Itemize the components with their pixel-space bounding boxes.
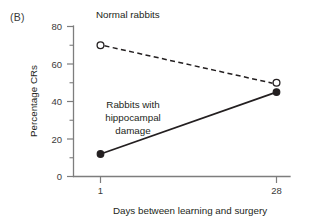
x-axis-tick-labels: 1 28 — [98, 185, 282, 196]
data-point-marker — [97, 42, 104, 49]
annotation-line: damage — [115, 125, 151, 136]
y-tick-label: 40 — [51, 96, 62, 107]
data-point-marker — [273, 79, 280, 86]
annotation-line: hippocampal — [105, 112, 161, 123]
x-axis-ticks — [101, 177, 277, 184]
y-axis-tick-labels: 80 60 40 20 0 — [51, 21, 62, 182]
y-axis-major-ticks — [67, 27, 74, 177]
series-normal-rabbits — [97, 42, 280, 86]
y-tick-label: 20 — [51, 134, 62, 145]
y-axis-title: Percentage CRs — [28, 65, 39, 137]
chart-canvas: 80 60 40 20 0 1 28 Percentage CRs Days b… — [0, 0, 316, 222]
y-tick-label: 0 — [57, 171, 62, 182]
data-point-marker — [97, 151, 104, 158]
x-axis-title: Days between learning and surgery — [113, 205, 267, 216]
y-tick-label: 60 — [51, 59, 62, 70]
annotation-hippocampal-damage: Rabbits with hippocampal damage — [105, 99, 161, 136]
y-tick-label: 80 — [51, 21, 62, 32]
annotation-line: Rabbits with — [106, 99, 159, 110]
figure-panel-b: (B) 80 60 40 20 — [0, 0, 316, 222]
data-point-marker — [273, 89, 280, 96]
x-tick-label: 1 — [98, 185, 103, 196]
annotation-normal-rabbits: Normal rabbits — [96, 9, 160, 20]
x-tick-label: 28 — [271, 185, 282, 196]
